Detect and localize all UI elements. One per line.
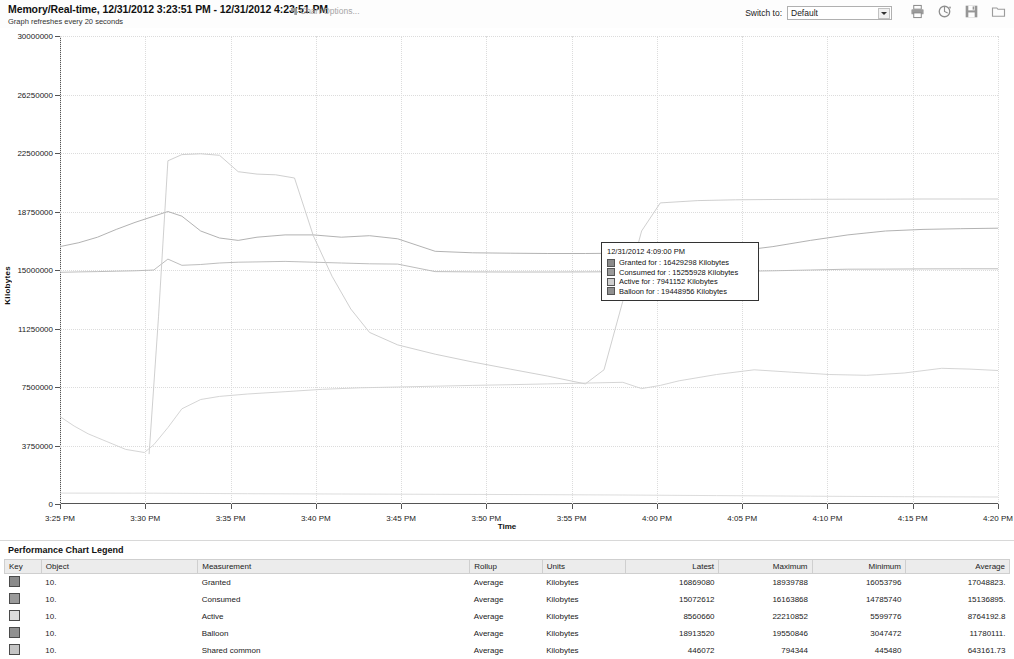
y-axis-label: Kilobytes [3,266,12,305]
legend-cell-average: 11780111. [905,625,1009,642]
y-tick-label: 15000000 [17,266,53,275]
series-swatch-icon [607,268,615,276]
series-swatch-icon [9,644,20,655]
datapoint-tooltip: 12/31/2012 4:09:00 PM Granted for : 1642… [601,242,759,301]
series-lines [60,36,998,504]
y-tick-label: 3750000 [22,441,53,450]
legend-cell-measurement: Consumed [198,591,470,608]
x-tick-mark [742,504,743,509]
legend-cell-minimum: 3047472 [812,625,905,642]
legend-body: 10.GrantedAverageKilobytes16869080189397… [5,574,1010,659]
tooltip-row-label: Consumed for : 15255928 Kilobytes [619,268,738,277]
legend-cell-measurement: Balloon [198,625,470,642]
legend-key-cell [5,625,42,642]
legend-cell-average: 8764192.8 [905,608,1009,625]
series-swatch-icon [9,576,20,587]
tooltip-row: Active for : 7941152 Kilobytes [607,277,753,286]
series-swatch-icon [607,287,615,295]
x-tick-mark [913,504,914,509]
save-icon[interactable] [964,4,979,19]
switch-to-value: Default [791,8,818,18]
chart-options-link[interactable]: Chart Options... [300,6,360,16]
legend-cell-rollup: Average [470,625,542,642]
series-line [60,259,998,272]
y-tick-label: 7500000 [22,383,53,392]
legend-cell-minimum: 5599776 [812,608,905,625]
series-swatch-icon [9,627,20,638]
legend-column-header[interactable]: Units [542,560,625,574]
tooltip-row: Consumed for : 15255928 Kilobytes [607,268,753,277]
x-tick-mark [145,504,146,509]
legend-cell-units: Kilobytes [542,608,625,625]
x-tick-mark [401,504,402,509]
table-row[interactable]: 10.ActiveAverageKilobytes856066022210852… [5,608,1010,625]
legend-cell-latest: 446072 [625,642,718,659]
legend-cell-latest: 16869080 [625,574,718,592]
legend-table: KeyObjectMeasurementRollupUnitsLatestMax… [4,559,1010,659]
tooltip-rows: Granted for : 16429298 KilobytesConsumed… [607,258,753,296]
refresh-note: Graph refreshes every 20 seconds [8,17,328,26]
legend-cell-average: 17048823. [905,574,1009,592]
legend-cell-rollup: Average [470,574,542,592]
refresh-icon[interactable] [937,4,952,19]
legend-cell-object: 10. [41,574,197,592]
legend-column-header[interactable]: Key [5,560,42,574]
plot-area[interactable]: 0375000075000001125000015000000187500002… [60,36,998,504]
legend-cell-maximum: 18939788 [719,574,812,592]
legend-cell-latest: 15072612 [625,591,718,608]
legend-column-header[interactable]: Average [905,560,1009,574]
x-tick-mark [657,504,658,509]
series-line [149,154,998,454]
table-row[interactable]: 10.ConsumedAverageKilobytes1507261216163… [5,591,1010,608]
y-tick-label: 26250000 [17,90,53,99]
legend-column-header[interactable]: Object [41,560,197,574]
legend-cell-maximum: 19550846 [719,625,812,642]
switch-to-select[interactable]: Default [787,6,892,20]
table-row[interactable]: 10.GrantedAverageKilobytes16869080189397… [5,574,1010,592]
x-tick-mark [572,504,573,509]
series-line [60,493,998,497]
y-tick-label: 30000000 [17,32,53,41]
legend-column-header[interactable]: Rollup [470,560,542,574]
x-tick-mark [827,504,828,509]
legend-key-cell [5,574,42,592]
chevron-down-icon[interactable] [878,8,890,19]
chart-legend-panel: Performance Chart Legend KeyObjectMeasur… [0,540,1014,645]
x-tick-mark [60,504,61,509]
legend-cell-object: 10. [41,642,197,659]
table-row[interactable]: 10.BalloonAverageKilobytes18913520195508… [5,625,1010,642]
legend-cell-maximum: 22210852 [719,608,812,625]
legend-cell-measurement: Active [198,608,470,625]
x-tick-mark [316,504,317,509]
title-block: Memory/Real-time, 12/31/2012 3:23:51 PM … [8,3,328,26]
tooltip-row: Granted for : 16429298 Kilobytes [607,258,753,267]
tooltip-row-label: Balloon for : 19448956 Kilobytes [619,287,727,296]
legend-column-header[interactable]: Measurement [198,560,470,574]
legend-column-header[interactable]: Maximum [719,560,812,574]
page-title: Memory/Real-time, 12/31/2012 3:23:51 PM … [8,3,328,15]
print-icon[interactable] [910,4,925,19]
legend-cell-maximum: 794344 [719,642,812,659]
legend-cell-maximum: 16163868 [719,591,812,608]
table-row[interactable]: 10.Shared commonAverageKilobytes44607279… [5,642,1010,659]
legend-column-header[interactable]: Latest [625,560,718,574]
tooltip-row-label: Granted for : 16429298 Kilobytes [619,258,729,267]
legend-column-header[interactable]: Minimum [812,560,905,574]
series-swatch-icon [607,259,615,267]
legend-cell-object: 10. [41,608,197,625]
folder-icon[interactable] [991,4,1006,19]
switch-to-control: Switch to: Default [745,6,892,20]
legend-cell-minimum: 16053796 [812,574,905,592]
toolbar-header: Memory/Real-time, 12/31/2012 3:23:51 PM … [0,0,1014,29]
legend-cell-object: 10. [41,591,197,608]
legend-cell-average: 643161.73 [905,642,1009,659]
legend-cell-minimum: 445480 [812,642,905,659]
legend-cell-units: Kilobytes [542,625,625,642]
y-tick-label: 18750000 [17,207,53,216]
x-tick-mark [998,504,999,509]
x-axis-label: Time [0,522,1014,531]
legend-key-cell [5,642,42,659]
legend-cell-units: Kilobytes [542,591,625,608]
series-swatch-icon [9,593,20,604]
gridline-vertical [998,36,999,504]
